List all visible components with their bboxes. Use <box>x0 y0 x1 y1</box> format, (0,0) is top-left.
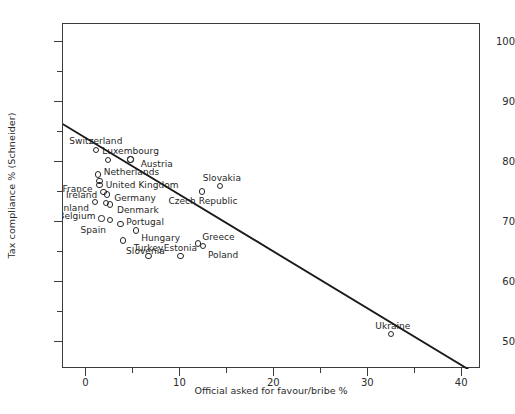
y-axis-minor-tick <box>57 251 62 252</box>
data-layer: SwitzerlandLuxembourgAustriaNetherlandsU… <box>63 24 481 369</box>
y-axis-tick-label: 60 <box>467 276 515 287</box>
x-axis-minor-tick <box>320 368 321 373</box>
data-point-label: Turkey <box>134 243 164 253</box>
x-axis-tick-label: 40 <box>441 377 481 388</box>
y-axis-tick-label: 50 <box>467 336 515 347</box>
x-axis-tick-label: 0 <box>65 377 105 388</box>
y-axis-tick <box>54 341 62 342</box>
data-point-label: Czech Republic <box>168 196 237 206</box>
data-point-marker[interactable] <box>96 182 102 188</box>
data-point-marker[interactable] <box>145 253 151 259</box>
y-axis-tick-label: 70 <box>467 216 515 227</box>
data-point-label: Hungary <box>141 233 180 243</box>
data-point-label: Greece <box>202 232 234 242</box>
y-axis-tick <box>54 281 62 282</box>
data-point-label: Spain <box>81 225 106 235</box>
x-axis-minor-tick <box>132 368 133 373</box>
y-axis-tick <box>54 101 62 102</box>
data-point-marker[interactable] <box>98 215 104 221</box>
x-axis-minor-tick <box>414 368 415 373</box>
data-point-label: Luxembourg <box>102 146 159 156</box>
data-point-label: Poland <box>208 250 238 260</box>
x-axis-tick <box>367 368 368 376</box>
x-axis-tick <box>85 368 86 376</box>
data-point-marker[interactable] <box>95 171 101 177</box>
data-point-marker[interactable] <box>117 221 123 227</box>
data-point-marker[interactable] <box>127 156 133 162</box>
data-point-marker[interactable] <box>120 237 126 243</box>
data-point-label: Estonia <box>164 243 197 253</box>
data-point-label: Netherlands <box>104 167 159 177</box>
data-point-marker[interactable] <box>177 253 183 259</box>
y-axis-title: Tax compliance % (Schneider) <box>0 0 22 370</box>
plot-area: SwitzerlandLuxembourgAustriaNetherlandsU… <box>62 23 480 368</box>
data-point-marker[interactable] <box>107 201 113 207</box>
x-axis-tick <box>461 368 462 376</box>
data-point-label: Germany <box>114 193 156 203</box>
y-axis-minor-tick <box>57 191 62 192</box>
data-point-marker[interactable] <box>104 191 110 197</box>
x-axis-tick <box>179 368 180 376</box>
data-point-label: Ukraine <box>375 321 410 331</box>
x-axis-tick-label: 10 <box>159 377 199 388</box>
data-point-label: United Kingdom <box>106 180 179 190</box>
data-point-marker[interactable] <box>199 188 205 194</box>
data-point-label: Portugal <box>126 217 164 227</box>
data-point-label: Belgium <box>63 211 96 221</box>
y-axis-tick <box>54 161 62 162</box>
y-axis-tick <box>54 221 62 222</box>
y-axis-tick-label: 100 <box>467 36 515 47</box>
y-axis-minor-tick <box>57 71 62 72</box>
data-point-label: Switzerland <box>69 136 122 146</box>
y-axis-minor-tick <box>57 131 62 132</box>
y-axis-title-text: Tax compliance % (Schneider) <box>6 112 17 258</box>
x-axis-tick <box>273 368 274 376</box>
y-axis-tick-label: 90 <box>467 96 515 107</box>
y-axis-tick <box>54 41 62 42</box>
x-axis-tick-label: 20 <box>253 377 293 388</box>
y-axis-tick-label: 80 <box>467 156 515 167</box>
data-point-marker[interactable] <box>133 227 139 233</box>
x-axis-tick-label: 30 <box>347 377 387 388</box>
x-axis-minor-tick <box>226 368 227 373</box>
y-axis-minor-tick <box>57 311 62 312</box>
data-point-label: Slovakia <box>203 173 241 183</box>
scatter-plot-figure: Tax compliance % (Schneider) Official as… <box>0 0 515 414</box>
data-point-label: Denmark <box>117 205 159 215</box>
